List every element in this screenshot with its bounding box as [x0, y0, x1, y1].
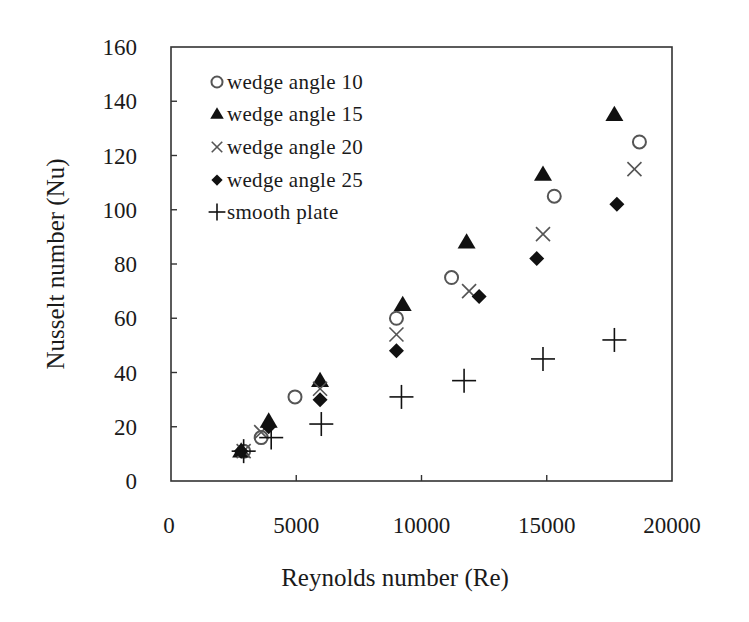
y-tick-label: 120	[103, 144, 138, 169]
plus-marker-icon	[209, 204, 226, 221]
diamond-marker-icon	[389, 343, 404, 358]
triangle-marker-icon	[534, 165, 552, 180]
triangle-marker-icon	[311, 372, 329, 387]
x-tick-label: 5000	[273, 513, 319, 538]
plus-marker-icon	[232, 439, 256, 463]
y-tick-label: 100	[103, 198, 138, 223]
triangle-marker-icon	[210, 107, 224, 118]
circle-marker-icon	[633, 135, 646, 148]
triangle-marker-icon	[605, 106, 623, 121]
circle-marker-icon	[445, 271, 458, 284]
y-axis: 020406080100120140160	[103, 35, 178, 494]
plus-marker-icon	[531, 347, 555, 371]
x-tick-label: 15000	[518, 513, 576, 538]
legend-label: smooth plate	[227, 200, 339, 224]
x-axis-title: Reynolds number (Re)	[281, 564, 509, 592]
diamond-marker-icon	[609, 197, 624, 212]
x-marker-icon	[212, 142, 223, 153]
x-marker-icon	[389, 328, 403, 342]
triangle-marker-icon	[458, 233, 476, 248]
diamond-marker-icon	[529, 251, 544, 266]
scatter-chart: 020406080100120140160 050001000015000200…	[0, 0, 749, 622]
legend: wedge angle 10wedge angle 15wedge angle …	[209, 70, 363, 224]
data-points	[232, 106, 646, 463]
y-tick-label: 20	[114, 415, 137, 440]
x-tick-label: 20000	[643, 513, 701, 538]
circle-marker-icon	[548, 190, 561, 203]
plus-marker-icon	[309, 412, 333, 436]
y-tick-label: 0	[126, 469, 138, 494]
circle-marker-icon	[288, 390, 301, 403]
plus-marker-icon	[259, 426, 283, 450]
x-marker-icon	[536, 227, 550, 241]
plus-marker-icon	[602, 328, 626, 352]
legend-item: wedge angle 20	[212, 135, 363, 159]
x-tick-label: 10000	[393, 513, 451, 538]
legend-label: wedge angle 20	[227, 135, 363, 159]
plus-marker-icon	[389, 385, 413, 409]
circle-marker-icon	[211, 76, 222, 87]
legend-item: smooth plate	[209, 200, 339, 224]
plus-marker-icon	[452, 369, 476, 393]
legend-item: wedge angle 15	[210, 102, 363, 126]
y-axis-title: Nusselt number (Nu)	[42, 158, 70, 369]
legend-label: wedge angle 10	[227, 70, 363, 94]
x-axis: 05000100001500020000	[163, 475, 701, 538]
diamond-marker-icon	[472, 289, 487, 304]
legend-item: wedge angle 25	[211, 168, 363, 192]
triangle-marker-icon	[394, 296, 412, 311]
y-tick-label: 60	[114, 306, 137, 331]
y-tick-label: 80	[114, 252, 137, 277]
legend-label: wedge angle 25	[227, 168, 363, 192]
legend-item: wedge angle 10	[211, 70, 363, 94]
y-tick-label: 140	[103, 89, 138, 114]
circle-marker-icon	[390, 312, 403, 325]
x-marker-icon	[627, 162, 641, 176]
legend-label: wedge angle 15	[227, 102, 363, 126]
series-smooth-plate	[232, 328, 627, 463]
series-wedge-angle-25	[234, 197, 625, 459]
y-tick-label: 160	[103, 35, 138, 60]
diamond-marker-icon	[211, 174, 222, 185]
y-tick-label: 40	[114, 361, 137, 386]
x-tick-label: 0	[163, 513, 175, 538]
